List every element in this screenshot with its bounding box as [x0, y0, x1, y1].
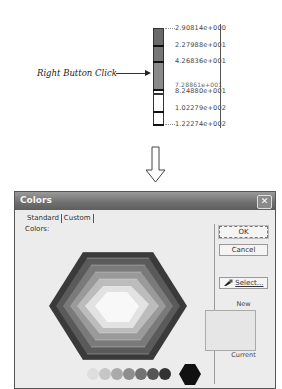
legend-tick	[153, 111, 164, 113]
black-swatch[interactable]	[179, 364, 201, 385]
vertical-separator	[214, 224, 215, 384]
ok-button[interactable]: OK	[219, 226, 268, 238]
colors-dialog: Colors ✕ StandardCustom Colors:	[14, 191, 276, 389]
legend-tick	[153, 89, 164, 91]
legend-leader-line	[165, 28, 175, 29]
colors-label: Colors:	[25, 225, 49, 233]
grayscale-swatches[interactable]	[87, 364, 201, 385]
legend-leader-line	[165, 124, 175, 125]
eyedropper-icon	[223, 279, 233, 287]
legend-segment[interactable]	[153, 94, 164, 112]
legend-label: 1.02279e+002	[175, 104, 226, 112]
legend-segment[interactable]	[153, 62, 164, 90]
legend-segment[interactable]	[153, 46, 164, 62]
legend-label: 2.90814e+000	[175, 24, 226, 32]
tab-standard[interactable]: Standard	[25, 214, 61, 222]
tab-custom[interactable]: Custom	[62, 214, 93, 222]
select-button[interactable]: Select...	[219, 277, 268, 289]
legend-label: 1.22274e+002	[175, 120, 226, 128]
tab-bar: StandardCustom	[25, 214, 94, 223]
annotation-arrow-line	[116, 73, 146, 74]
color-hexagon-palette[interactable]	[35, 244, 205, 389]
new-label: New	[219, 300, 268, 308]
legend-label: 2.27988e+001	[175, 41, 226, 49]
dialog-titlebar[interactable]: Colors ✕	[15, 192, 275, 210]
current-label: Current	[219, 351, 268, 359]
annotation-label: Right Button Click	[37, 68, 117, 78]
down-arrow-icon	[145, 146, 167, 184]
legend-tick	[153, 45, 164, 47]
new-color-preview	[205, 310, 256, 351]
dialog-title: Colors	[20, 195, 52, 205]
legend-tick	[153, 124, 164, 126]
legend-segment[interactable]	[153, 28, 164, 46]
select-button-label: Select...	[235, 279, 263, 287]
plot-border-line	[220, 24, 221, 128]
cancel-button[interactable]: Cancel	[219, 244, 268, 256]
legend-tick	[153, 61, 164, 63]
hex-grid[interactable]	[49, 252, 187, 360]
tab-divider	[93, 214, 94, 223]
close-button[interactable]: ✕	[257, 195, 272, 209]
annotation-arrow-icon	[145, 70, 151, 76]
color-legend-bar[interactable]	[153, 28, 164, 126]
legend-label: 4.26836e+001	[175, 57, 226, 65]
legend-label: 8.24880e+001	[175, 87, 226, 95]
